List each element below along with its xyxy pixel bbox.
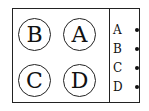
dot-icon (135, 28, 139, 32)
circle-label: D (71, 70, 89, 92)
legend-label: C (113, 61, 122, 75)
dot-icon (135, 85, 139, 89)
dot-icon (135, 66, 139, 70)
panel-divider (109, 9, 110, 102)
diagram-frame: B A C D A B C D (12, 8, 140, 103)
legend-label: A (113, 23, 122, 37)
legend-label: D (113, 80, 123, 94)
circle-bottom-right: D (63, 64, 96, 97)
legend-item-c: C (113, 58, 139, 77)
circle-top-left: B (18, 18, 51, 51)
legend-item-a: A (113, 20, 139, 39)
circle-bottom-left: C (18, 64, 51, 97)
circle-label: A (72, 24, 88, 46)
legend-item-b: B (113, 39, 139, 58)
dot-icon (135, 47, 139, 51)
circle-label: C (26, 70, 43, 92)
circle-top-right: A (63, 18, 96, 51)
legend-item-d: D (113, 77, 139, 96)
circle-label: B (26, 24, 42, 46)
legend-label: B (113, 42, 122, 56)
legend-panel: A B C D (113, 20, 139, 96)
